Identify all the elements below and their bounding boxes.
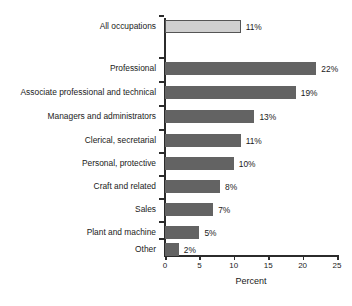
bar-value-label: 13%: [259, 112, 276, 122]
bar-value-label: 8%: [225, 182, 237, 192]
x-axis-tick-label: 0: [153, 261, 177, 270]
x-axis-tick: [337, 255, 339, 260]
x-axis-tick-label: 15: [256, 261, 280, 270]
bar: [165, 180, 220, 193]
bar: [165, 20, 241, 33]
category-label: Plant and machine: [0, 228, 156, 237]
x-axis-title: Percent: [164, 276, 338, 286]
bar-value-label: 7%: [218, 205, 230, 215]
category-label: Craft and related: [0, 182, 156, 191]
category-label: Professional: [0, 64, 156, 73]
category-label: Associate professional and technical: [0, 88, 156, 97]
bar-value-label: 2%: [184, 245, 196, 255]
y-axis-tick: [159, 221, 164, 223]
y-axis-tick: [159, 238, 164, 240]
bar-value-label: 10%: [239, 159, 256, 169]
bar: [165, 157, 234, 170]
bar-value-label: 11%: [246, 136, 262, 146]
bar: [165, 243, 179, 256]
x-axis-tick: [268, 255, 270, 260]
x-axis-line: [164, 255, 338, 257]
bar: [165, 86, 296, 99]
y-axis-tick: [159, 57, 164, 59]
category-label: Personal, protective: [0, 159, 156, 168]
y-axis-tick: [159, 129, 164, 131]
bar-value-label: 11%: [246, 22, 262, 32]
bar: [165, 226, 199, 239]
bar: [165, 62, 316, 75]
x-axis-tick: [199, 255, 201, 260]
x-axis-tick-label: 5: [187, 261, 211, 270]
bar-value-label: 19%: [301, 88, 318, 98]
bar-chart-plot-area: 0510152025 All occupationsProfessionalAs…: [0, 0, 352, 306]
bar-value-label: 5%: [204, 228, 216, 238]
x-axis-tick: [303, 255, 305, 260]
y-axis-tick: [159, 198, 164, 200]
y-axis-tick: [159, 175, 164, 177]
y-axis-tick: [159, 105, 164, 107]
x-axis-tick-label: 20: [291, 261, 315, 270]
category-label: Other: [0, 245, 156, 254]
y-axis-tick: [159, 81, 164, 83]
y-axis-tick: [159, 152, 164, 154]
x-axis-tick-label: 25: [325, 261, 349, 270]
category-label: Sales: [0, 205, 156, 214]
y-axis-tick: [159, 15, 164, 17]
bar: [165, 110, 254, 123]
x-axis-tick: [234, 255, 236, 260]
bar-value-label: 22%: [321, 64, 338, 74]
bar: [165, 203, 213, 216]
bar: [165, 134, 241, 147]
category-label: Managers and administrators: [0, 112, 156, 121]
category-label: Clerical, secretarial: [0, 136, 156, 145]
x-axis-tick-label: 10: [222, 261, 246, 270]
category-label: All occupations: [0, 22, 156, 31]
